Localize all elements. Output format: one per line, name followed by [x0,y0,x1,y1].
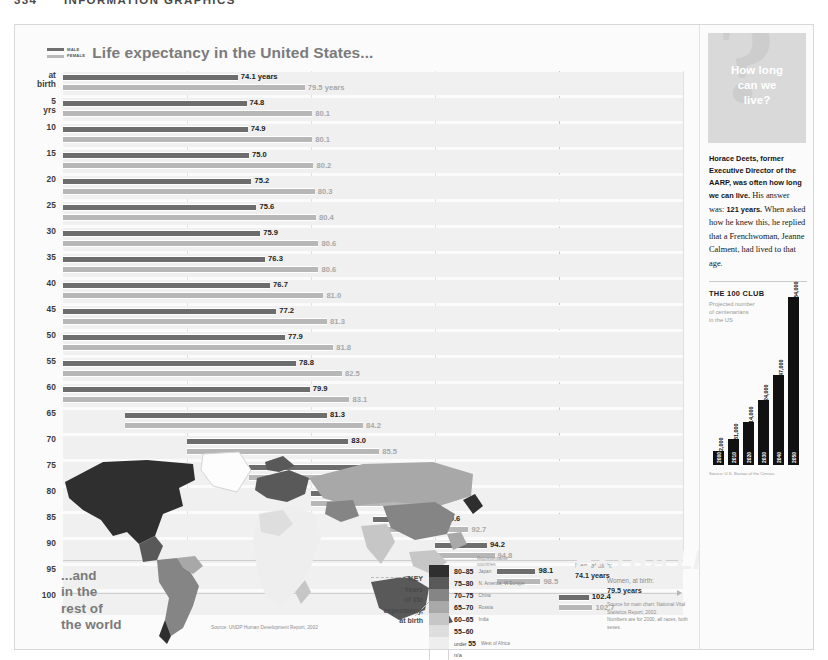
chart-title: Life expectancy in the United States... [92,44,373,62]
bar-female [63,396,349,403]
key-swatch [429,589,449,601]
bar-female [63,84,305,91]
sidebar-body: Horace Deets, former Executive Director … [709,153,807,271]
chart-row: 6581.384.2 [63,409,683,435]
key-swatch [429,577,449,589]
row-label-60: 60 [10,383,56,392]
key-range-label: 65–70 [454,604,473,611]
main-chart-source: Source for main chart: National Vital St… [607,601,701,631]
bar-value-male: 78.8 [299,359,314,366]
bar-female [125,422,363,429]
key-range-label: 80–85 [454,568,473,575]
running-head: 334 INFORMATION GRAPHICS [14,0,236,6]
bar-value-male: 74.1 years [241,73,278,80]
bar-female [63,136,312,143]
bar-value-male: 75.6 [259,203,274,210]
key-range-label: under 55 [454,640,476,647]
legend-label-male: MALE [67,48,80,52]
infographic-page: 334 INFORMATION GRAPHICS MALE FEMALE Lif… [0,0,828,660]
page-folio: 334 [14,0,37,6]
running-head-title: INFORMATION GRAPHICS [64,0,236,6]
key-swatch [429,613,449,625]
key-swatch [429,601,449,613]
bar-value-male: 77.2 [279,307,294,314]
bar-male [63,178,251,185]
key-row: 60–65India [429,613,559,625]
row-label-35: 35 [10,253,56,262]
bar-male [63,204,256,211]
bar-value-male: 76.3 [268,255,283,262]
bar-value-female: 80.4 [319,214,334,221]
chart-row: 5077.981.8 [63,331,683,357]
bar-value-female: 83.1 [352,396,367,403]
chart-row: 2075.280.3 [63,175,683,201]
club-bar-year: 2030 [761,452,767,463]
key-swatch [429,565,449,577]
key-row: under 55West of Africa [429,637,559,649]
map-key: KEY Years of life expectancy, at birth R… [429,565,559,660]
row-label-20: 20 [10,175,56,184]
bar-value-female: 84.2 [366,422,381,429]
key-row: 75–80N. America, W.Europe [429,577,559,589]
chart-row: atbirth74.1 years79.5 years [63,71,683,97]
row-label-15: 15 [10,149,56,158]
club-bar-value: 131,000 [733,423,739,443]
bar-value-male: 79.9 [313,385,328,392]
key-row: n/a [429,649,559,660]
bar-value-female: 81.8 [336,344,351,351]
women-annotation-value: 79.5 years [607,586,642,595]
female-swatch-icon [47,55,64,58]
sidebar-headline: How long can we live? [708,63,806,109]
row-label-65: 65 [10,409,56,418]
bar-value-male: 75.0 [252,151,267,158]
key-range-label: n/a [454,652,462,658]
main-panel: MALE FEMALE Life expectancy in the Unite… [15,25,701,649]
key-title-line4: expectancy, [363,606,423,617]
club-bar-value: 214,000 [748,406,754,426]
poster-frame: MALE FEMALE Life expectancy in the Unite… [14,24,814,650]
bar-female [63,188,315,195]
bar-male [63,308,276,315]
row-label-50: 50 [10,331,56,340]
chart-row: 4577.281.3 [63,305,683,331]
sidebar-body-rest: When asked how he knew this, he replied … [709,205,805,268]
key-range-label: 60–65 [454,616,473,623]
bar-female [63,344,333,351]
club-bar-value: 447,000 [778,359,784,379]
key-country-label: N. America, W.Europe [478,581,524,586]
club-bar-value: 834,000 [793,282,799,302]
club-bar-value: 324,000 [763,384,769,404]
bar-male [63,256,265,263]
legend-label-female: FEMALE [67,54,85,58]
map-heading-line1: ...and [61,568,122,584]
map-heading-line2: in the [61,584,122,600]
sidebar-headline-line3: live? [708,93,806,108]
bar-value-male: 75.9 [263,229,278,236]
bar-male [63,334,285,341]
bar-value-male: 75.2 [254,177,269,184]
row-label-45: 45 [10,305,56,314]
bar-value-male: 74.8 [250,99,265,106]
row-label-at-birth: atbirth [10,71,56,89]
women-arrow-icon [677,590,682,596]
key-title-line5: at birth [363,616,423,627]
bar-value-female: 81.3 [330,318,345,325]
main-chart-source-line1: Source for main chart: National Vital St… [607,601,701,616]
bar-female [63,318,327,325]
bar-female [63,370,342,377]
bar-value-male: 81.3 [330,411,345,418]
bar-female [63,162,313,169]
key-swatch [429,637,449,649]
key-row: 65–70Russia [429,601,559,613]
club-bar-year: 2010 [731,452,737,463]
chart-row: 4076.781.0 [63,279,683,305]
men-annotation-value: 74.1 years [575,571,610,580]
chart-row: 3075.980.6 [63,227,683,253]
bar-value-male: 76.7 [273,281,288,288]
male-female-legend: MALE FEMALE [47,48,85,58]
club-bar-year: 2000 [716,452,722,463]
key-country-label: China [478,593,490,598]
map-heading: ...and in the rest of the world [61,568,122,634]
chart-row: 2575.680.4 [63,201,683,227]
chart-row: 6079.983.1 [63,383,683,409]
